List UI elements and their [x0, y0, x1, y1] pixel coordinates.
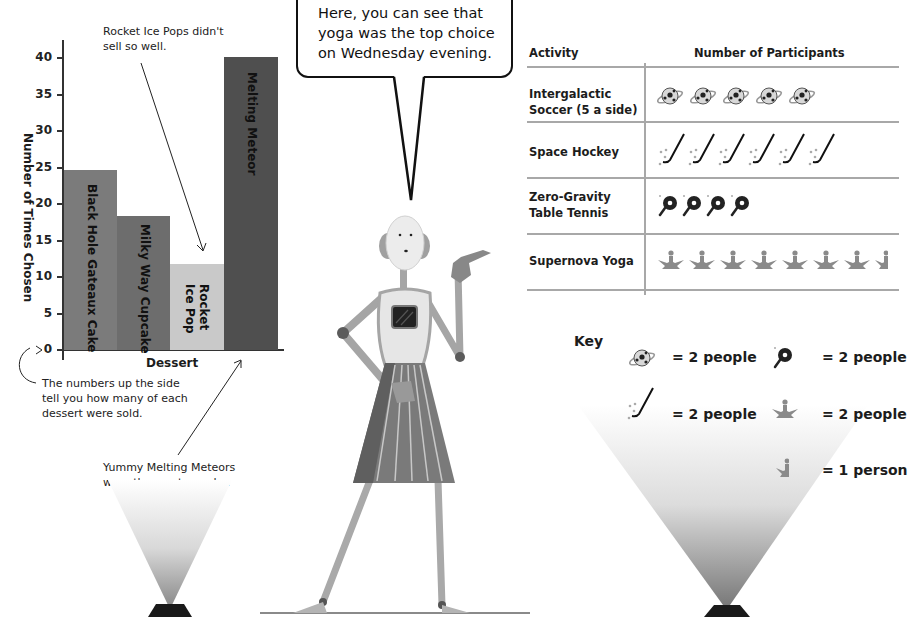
projector-left [100, 470, 260, 619]
row-label-intergalactic-soccer: Intergalactic Soccer (5 a side) [529, 86, 639, 118]
speech-line: yoga was the top choice [318, 23, 508, 43]
key-soccer-value: = 2 people [672, 349, 757, 365]
row-label-line: Soccer (5 a side) [529, 102, 639, 118]
icon-row-yoga [657, 249, 888, 271]
column-header-participants: Number of Participants [694, 46, 845, 60]
row-label-space-hockey: Space Hockey [529, 144, 639, 160]
row-label-line: Table Tennis [529, 205, 639, 221]
row-label-zero-gravity-table-tennis: Zero-Gravity Table Tennis [529, 189, 639, 221]
table-rule [527, 233, 899, 235]
paddle-icon [729, 193, 751, 217]
yoga-figure-icon [750, 249, 778, 271]
soccer-planet-icon [789, 84, 816, 108]
yoga-figure-icon [719, 249, 747, 271]
speech-bubble-tail [380, 74, 440, 204]
half-yoga-figure-icon [775, 457, 789, 479]
yoga-figure-icon [781, 249, 809, 271]
half-yoga-figure-icon [874, 249, 888, 271]
key-yoga-value: = 2 people [822, 406, 907, 422]
paddle-icon [772, 345, 794, 369]
hockey-stick-icon [717, 130, 746, 170]
robot-presenter [255, 205, 535, 619]
speech-line: Here, you can see that [318, 3, 508, 23]
paddle-icon [681, 193, 703, 217]
yoga-figure-icon [688, 249, 716, 271]
row-label-supernova-yoga: Supernova Yoga [529, 253, 639, 269]
hockey-stick-icon [657, 130, 686, 170]
table-rule [527, 289, 899, 291]
projector-right [578, 400, 868, 619]
yoga-figure-icon [812, 249, 840, 271]
key-half-yoga-value: = 1 person [822, 462, 908, 478]
yoga-figure-icon [843, 249, 871, 271]
speech-bubble-text: Here, you can see that yoga was the top … [318, 3, 508, 63]
key-paddle-value: = 2 people [822, 349, 907, 365]
icon-row-soccer [657, 84, 816, 108]
table-rule [527, 177, 899, 179]
paddle-icon [705, 193, 727, 217]
soccer-planet-icon [690, 84, 717, 108]
yoga-figure-icon [771, 398, 799, 420]
column-header-activity: Activity [529, 46, 579, 60]
hockey-stick-icon [807, 130, 836, 170]
hockey-stick-icon [626, 384, 655, 424]
soccer-planet-icon [723, 84, 750, 108]
paddle-icon [657, 193, 679, 217]
row-label-line: Intergalactic [529, 86, 639, 102]
table-rule [527, 121, 899, 123]
hockey-stick-icon [777, 130, 806, 170]
hockey-stick-icon [687, 130, 716, 170]
yoga-figure-icon [657, 249, 685, 271]
table-divider [644, 63, 646, 295]
key-title: Key [574, 333, 603, 349]
hockey-stick-icon [747, 130, 776, 170]
table-rule [527, 66, 899, 68]
icon-row-table-tennis [657, 193, 751, 217]
soccer-planet-icon [629, 346, 656, 370]
speech-line: on Wednesday evening. [318, 43, 508, 63]
soccer-planet-icon [657, 84, 684, 108]
soccer-planet-icon [756, 84, 783, 108]
icon-row-hockey [657, 130, 836, 170]
key-hockey-value: = 2 people [672, 406, 757, 422]
row-label-line: Zero-Gravity [529, 189, 639, 205]
